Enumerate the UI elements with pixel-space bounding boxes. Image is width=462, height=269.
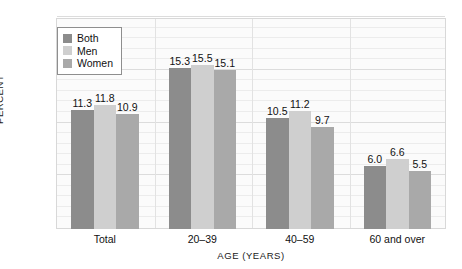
bar: 11.2: [289, 111, 312, 229]
gridline-major: [57, 16, 445, 17]
bar-chart: PERCENT 11.311.810.915.315.515.110.511.2…: [0, 0, 462, 269]
bar-value-label: 11.8: [95, 92, 115, 104]
x-axis-tick-label: 60 and over: [370, 233, 425, 245]
y-axis-title: PERCENT: [0, 75, 5, 124]
legend-swatch-icon: [63, 46, 72, 55]
x-axis-tick-label: 20–39: [188, 233, 217, 245]
bar-value-label: 15.3: [170, 55, 190, 67]
bar-group: 15.315.515.1: [169, 18, 237, 229]
bar: 15.1: [214, 70, 237, 229]
bar: 11.8: [94, 105, 117, 229]
bar-value-label: 10.9: [117, 101, 137, 113]
bar: 6.6: [386, 159, 409, 229]
legend-swatch-icon: [63, 34, 72, 43]
x-axis-tick-label: Total: [94, 233, 116, 245]
bar-value-label: 11.3: [72, 97, 92, 109]
legend-item: Women: [63, 57, 113, 70]
bar-value-label: 15.1: [215, 57, 235, 69]
bar: 6.0: [364, 166, 387, 229]
bar: 10.5: [266, 118, 289, 229]
bar-value-label: 10.5: [267, 105, 287, 117]
x-axis-title: AGE (YEARS): [217, 250, 284, 261]
bar-group: 6.06.65.5: [364, 18, 432, 229]
bar: 10.9: [116, 114, 139, 229]
legend-item-label: Men: [77, 46, 97, 57]
legend-swatch-icon: [63, 59, 72, 68]
bar-group: 10.511.29.7: [266, 18, 334, 229]
legend-item: Men: [63, 45, 113, 58]
legend-item-label: Women: [77, 58, 113, 69]
bar-value-label: 15.5: [192, 52, 212, 64]
bar-value-label: 5.5: [412, 158, 427, 170]
bar-value-label: 6.0: [367, 153, 382, 165]
bar: 15.3: [169, 68, 192, 229]
chart-legend: BothMenWomen: [57, 27, 122, 75]
bar: 5.5: [409, 171, 432, 229]
legend-item-label: Both: [77, 33, 99, 44]
x-axis-tick-label: 40–59: [285, 233, 314, 245]
bar: 15.5: [191, 65, 214, 229]
bar: 11.3: [71, 110, 94, 229]
legend-item: Both: [63, 32, 113, 45]
bar: 9.7: [311, 127, 334, 229]
bar-value-label: 6.6: [390, 146, 405, 158]
bar-value-label: 11.2: [290, 98, 310, 110]
bar-value-label: 9.7: [315, 114, 330, 126]
